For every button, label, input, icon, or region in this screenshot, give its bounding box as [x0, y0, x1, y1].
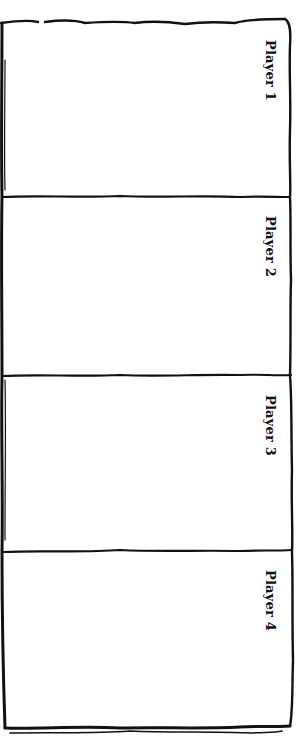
player-board: Player 1 Player 2 Player 3 Player 4: [0, 0, 302, 740]
player-3-label: Player 3: [263, 395, 278, 456]
player-1-label: Player 1: [263, 40, 278, 101]
player-2-label: Player 2: [263, 216, 278, 277]
player-3-area[interactable]: Player 3: [4, 377, 288, 549]
player-1-area[interactable]: Player 1: [4, 22, 288, 196]
player-2-area[interactable]: Player 2: [4, 198, 288, 374]
player-4-area[interactable]: Player 4: [4, 552, 288, 726]
player-4-label: Player 4: [263, 570, 278, 631]
